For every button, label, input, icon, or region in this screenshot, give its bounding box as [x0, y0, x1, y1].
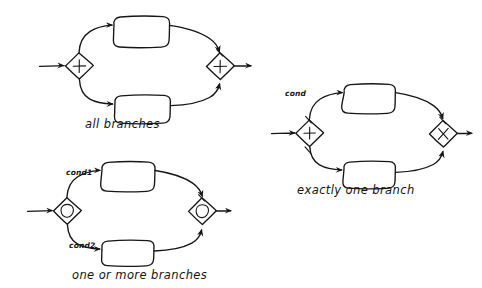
task-box-bottom-3[interactable] — [102, 240, 154, 266]
diagram-exactly-one-branch: cond — [272, 84, 474, 197]
flow-task-bottom-to-join-3 — [154, 229, 203, 251]
gateway-split-parallel-1[interactable] — [66, 53, 94, 79]
flow-split-to-task-top-1 — [79, 22, 113, 52]
gateway-split-inclusive-3[interactable] — [54, 198, 82, 225]
flow-task-top-to-join-3 — [155, 171, 203, 198]
outgoing-flow-arrow-2 — [458, 130, 474, 136]
caption-all-branches: all branches — [85, 117, 160, 131]
incoming-flow-arrow — [40, 63, 65, 69]
flow-split-to-task-bottom-1 — [79, 79, 113, 107]
diagram-all-branches: all branches — [40, 16, 253, 131]
gateway-join-parallel-1[interactable] — [207, 50, 235, 80]
flow-task-bottom-to-join-1 — [171, 83, 222, 106]
flow-task-bottom-to-join-2 — [396, 150, 445, 172]
outgoing-flow-arrow-1 — [235, 63, 253, 69]
outgoing-flow-arrow-3 — [217, 208, 233, 214]
caption-one-or-more-branches: one or more branches — [72, 268, 207, 282]
incoming-flow-arrow-2 — [272, 130, 296, 136]
task-box-top-2[interactable] — [342, 84, 396, 114]
incoming-flow-arrow-3 — [28, 208, 54, 214]
caption-exactly-one-branch: exactly one branch — [297, 183, 415, 197]
gateway-join-exclusive-2[interactable] — [430, 117, 458, 147]
flow-split-to-task-top-2 — [309, 90, 343, 120]
flow-task-top-to-join-2 — [396, 93, 444, 120]
diagram-one-or-more-branches: cond1 cond2 — [28, 162, 233, 282]
task-box-top-1[interactable] — [113, 16, 169, 48]
flow-task-top-to-join-1 — [170, 25, 221, 52]
flow-label-cond: cond — [285, 89, 307, 98]
diagram-canvas: all branches cond — [0, 0, 482, 288]
task-box-top-3[interactable] — [101, 162, 155, 192]
gateway-join-inclusive-3[interactable] — [189, 195, 217, 225]
flow-split-to-task-bottom-2 — [310, 147, 343, 173]
